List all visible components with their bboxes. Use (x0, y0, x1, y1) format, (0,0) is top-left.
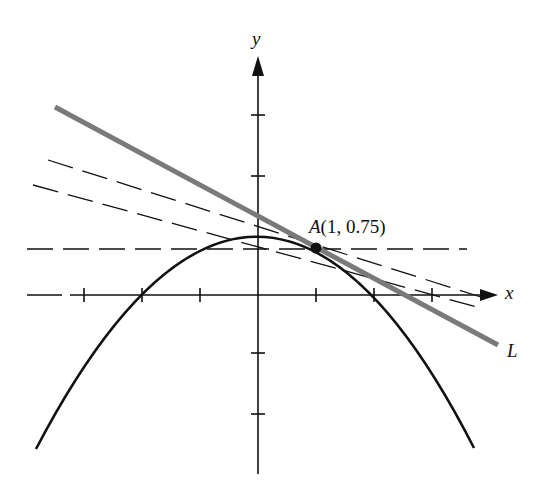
plot-svg (0, 0, 546, 491)
x-axis (27, 289, 498, 301)
secant-line-steep (48, 160, 484, 298)
point-A (311, 243, 322, 254)
figure-canvas: y x L A(1, 0.75) (0, 0, 546, 491)
point-A-name: A (309, 216, 321, 237)
point-A-label: A(1, 0.75) (309, 216, 386, 238)
secant-lines (27, 160, 484, 309)
y-axis (252, 56, 264, 474)
y-axis-arrow-icon (252, 56, 264, 76)
y-axis-label: y (252, 28, 260, 50)
point-A-coords: (1, 0.75) (321, 216, 386, 237)
parabola-curve (36, 237, 474, 449)
tangent-label-L: L (507, 340, 518, 362)
x-axis-label: x (505, 282, 513, 304)
x-axis-arrow-icon (480, 289, 498, 301)
tangent-line-L (55, 107, 498, 345)
